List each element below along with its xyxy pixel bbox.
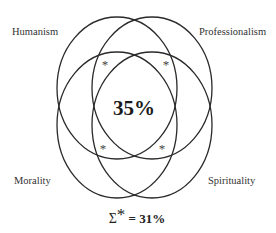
label-professionalism: Professionalism xyxy=(199,26,266,37)
overlap-marker-bottom-right: * xyxy=(159,142,166,155)
sigma-symbol: Σ xyxy=(109,211,117,226)
overlap-marker-top-right: * xyxy=(163,58,170,71)
sum-marker: * xyxy=(117,205,126,224)
label-morality: Morality xyxy=(14,175,51,186)
overlap-marker-bottom-left: * xyxy=(100,142,107,155)
ellipse-morality xyxy=(57,52,177,198)
overlap-marker-top-left: * xyxy=(102,58,109,71)
label-spirituality: Spirituality xyxy=(208,175,255,186)
sum-formula: Σ* = 31% xyxy=(109,208,166,228)
ellipse-spirituality xyxy=(92,52,212,198)
ellipse-professionalism xyxy=(92,17,212,159)
ellipse-humanism xyxy=(57,17,177,159)
sum-value: = 31% xyxy=(129,211,166,226)
center-percentage: 35% xyxy=(113,96,155,121)
label-humanism: Humanism xyxy=(12,26,58,37)
